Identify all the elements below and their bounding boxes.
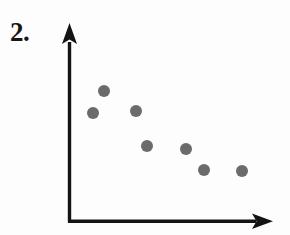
data-point-group — [87, 85, 248, 177]
worksheet-page: 2. — [0, 0, 290, 235]
data-point — [130, 105, 142, 117]
data-point — [98, 85, 110, 97]
scatter-plot-figure — [0, 0, 290, 235]
y-axis-arrowhead — [62, 23, 77, 44]
data-point — [236, 165, 248, 177]
data-point — [141, 140, 153, 152]
data-point — [87, 107, 99, 119]
data-point — [198, 164, 210, 176]
data-point — [180, 143, 192, 155]
